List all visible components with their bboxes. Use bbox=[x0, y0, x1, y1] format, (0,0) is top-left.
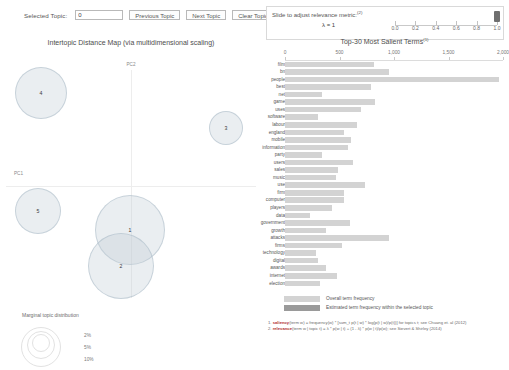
next-topic-button[interactable]: Next Topic bbox=[186, 10, 226, 20]
bar-overall-frequency bbox=[285, 281, 320, 287]
bar-term-label[interactable]: mobile bbox=[271, 137, 285, 142]
bar-term-label[interactable]: labour bbox=[272, 122, 285, 127]
marginal-circle-10pct bbox=[21, 327, 61, 367]
relevance-slider-footnote-marker: (2) bbox=[357, 10, 362, 15]
bar-term-label[interactable]: awards bbox=[270, 265, 285, 270]
bar-row[interactable]: digital bbox=[262, 257, 507, 264]
footnotes: 1. saliency(term w) = frequency(w) * [su… bbox=[268, 320, 506, 332]
bar-term-label[interactable]: best bbox=[276, 84, 285, 89]
bar-term-label[interactable]: people bbox=[271, 77, 285, 82]
legend-label: Estimated term frequency within the sele… bbox=[326, 305, 433, 310]
bar-row[interactable]: bn bbox=[262, 69, 507, 76]
bar-term-label[interactable]: game bbox=[274, 99, 286, 104]
bar-row[interactable]: net bbox=[262, 91, 507, 98]
bar-row[interactable]: uses bbox=[262, 106, 507, 113]
bar-term-label[interactable]: film bbox=[278, 62, 285, 67]
bar-overall-frequency bbox=[285, 77, 499, 83]
bar-overall-frequency bbox=[285, 220, 350, 226]
bar-term-label[interactable]: firm bbox=[277, 190, 285, 195]
bar-term-label[interactable]: england bbox=[269, 130, 285, 135]
bar-term-label[interactable]: software bbox=[268, 114, 285, 119]
bar-row[interactable]: users bbox=[262, 159, 507, 166]
bar-row[interactable]: information bbox=[262, 144, 507, 151]
bar-term-label[interactable]: election bbox=[269, 281, 285, 286]
bar-overall-frequency bbox=[285, 84, 371, 90]
bar-row[interactable]: awards bbox=[262, 265, 507, 272]
bar-row[interactable]: use bbox=[262, 182, 507, 189]
bar-term-label[interactable]: sales bbox=[274, 167, 285, 172]
bar-row[interactable]: people bbox=[262, 76, 507, 83]
bar-term-label[interactable]: firms bbox=[275, 243, 285, 248]
bar-row[interactable]: sales bbox=[262, 167, 507, 174]
bar-row[interactable]: players bbox=[262, 204, 507, 211]
bar-term-label[interactable]: players bbox=[270, 205, 285, 210]
bar-term-label[interactable]: users bbox=[274, 160, 285, 165]
bar-overall-frequency bbox=[285, 92, 322, 98]
bar-row[interactable]: internet bbox=[262, 272, 507, 279]
footnote-2-rest: (term w | topic t) = λ * p(w | t) + (1 -… bbox=[292, 326, 442, 331]
bar-term-label[interactable]: digital bbox=[273, 258, 285, 263]
x-axis-tick-label: 500 bbox=[335, 50, 343, 55]
slider-tick-label: 0.4 bbox=[432, 25, 439, 31]
bar-overall-frequency bbox=[285, 99, 375, 105]
bar-chart-rows: filmbnpeoplebestnetgameusessoftwarelabou… bbox=[262, 61, 507, 294]
bar-overall-frequency bbox=[285, 205, 332, 211]
bar-row[interactable]: film bbox=[262, 61, 507, 68]
bar-row[interactable]: data bbox=[262, 212, 507, 219]
bar-row[interactable]: government bbox=[262, 220, 507, 227]
footnote-1-term: saliency bbox=[273, 320, 290, 325]
bar-overall-frequency bbox=[285, 250, 316, 256]
bar-overall-frequency bbox=[285, 130, 344, 136]
bar-term-label[interactable]: information bbox=[262, 145, 285, 150]
bar-term-label[interactable]: use bbox=[278, 182, 285, 187]
slider-tick-label: 0.8 bbox=[473, 25, 480, 31]
bar-overall-frequency bbox=[285, 243, 342, 249]
previous-topic-button[interactable]: Previous Topic bbox=[129, 10, 180, 20]
intertopic-map-title: Intertopic Distance Map (via multidimens… bbox=[0, 39, 262, 46]
bar-row[interactable]: party bbox=[262, 152, 507, 159]
relevance-slider-handle[interactable] bbox=[494, 11, 500, 22]
lambda-value-label: λ = 1 bbox=[322, 22, 335, 28]
bar-row[interactable]: game bbox=[262, 99, 507, 106]
selected-topic-input[interactable] bbox=[75, 10, 123, 20]
bar-term-label[interactable]: internet bbox=[270, 273, 285, 278]
bar-term-label[interactable]: data bbox=[276, 213, 285, 218]
footnote-1-rest: (term w) = frequency(w) * [sum_t p(t | w… bbox=[289, 320, 466, 325]
bar-row[interactable]: election bbox=[262, 280, 507, 287]
bar-term-label[interactable]: computer bbox=[266, 197, 285, 202]
bar-row[interactable]: labour bbox=[262, 121, 507, 128]
bar-row[interactable]: computer bbox=[262, 197, 507, 204]
bar-term-label[interactable]: music bbox=[273, 175, 285, 180]
bar-overall-frequency bbox=[285, 137, 351, 143]
relevance-slider-track[interactable] bbox=[395, 25, 497, 26]
marginal-label-5pct: 5% bbox=[84, 345, 91, 350]
bar-term-label[interactable]: party bbox=[275, 152, 285, 157]
bar-overall-frequency bbox=[285, 145, 348, 151]
bar-row[interactable]: growth bbox=[262, 227, 507, 234]
bar-row[interactable]: music bbox=[262, 174, 507, 181]
topic-bubble-label-4: 4 bbox=[40, 90, 43, 96]
bar-row[interactable]: best bbox=[262, 84, 507, 91]
bar-row[interactable]: attacks bbox=[262, 235, 507, 242]
bar-row[interactable]: firm bbox=[262, 189, 507, 196]
bar-row[interactable]: mobile bbox=[262, 137, 507, 144]
x-axis-tick-label: 2,000 bbox=[497, 50, 509, 55]
bar-term-label[interactable]: uses bbox=[275, 107, 285, 112]
bar-row[interactable]: england bbox=[262, 129, 507, 136]
legend-label: Overall term frequency bbox=[326, 296, 375, 301]
x-axis-tick-label: 0 bbox=[284, 50, 287, 55]
bar-term-label[interactable]: growth bbox=[271, 228, 285, 233]
bar-overall-frequency bbox=[285, 197, 344, 203]
bar-row[interactable]: technology bbox=[262, 250, 507, 257]
relevance-slider-title-text: Slide to adjust relevance metric: bbox=[272, 12, 357, 18]
intertopic-distance-map-panel: Intertopic Distance Map (via multidimens… bbox=[0, 34, 262, 340]
bar-row[interactable]: software bbox=[262, 114, 507, 121]
relevance-slider-title: Slide to adjust relevance metric:(2) bbox=[272, 10, 362, 18]
marginal-label-10pct: 10% bbox=[84, 357, 94, 362]
bar-row[interactable]: firms bbox=[262, 242, 507, 249]
bar-overall-frequency bbox=[285, 235, 389, 241]
bar-term-label[interactable]: attacks bbox=[270, 235, 285, 240]
bar-overall-frequency bbox=[285, 62, 374, 68]
bar-term-label[interactable]: technology bbox=[263, 250, 285, 255]
bar-term-label[interactable]: government bbox=[261, 220, 285, 225]
